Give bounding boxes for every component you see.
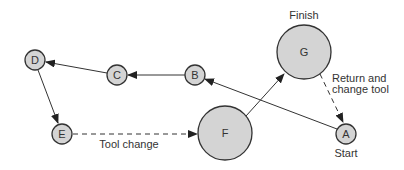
svg-text:D: D	[31, 54, 39, 66]
svg-text:G: G	[300, 46, 309, 58]
edge-d-to-e	[38, 70, 58, 123]
node-g: G	[277, 25, 331, 79]
node-f: F	[198, 106, 252, 160]
svg-text:F: F	[222, 127, 229, 139]
svg-text:A: A	[342, 128, 350, 140]
node-d: D	[25, 50, 45, 70]
node-e: E	[52, 124, 72, 144]
svg-text:B: B	[191, 69, 198, 81]
node-b: B	[185, 65, 205, 85]
edge-c-to-d	[46, 62, 107, 73]
node-a: A	[336, 124, 356, 144]
svg-text:C: C	[113, 69, 121, 81]
node-c: C	[107, 65, 127, 85]
tool-change-label: Tool change	[99, 138, 158, 150]
tool-path-diagram: A B C D E F G Finish Start Tool change R…	[0, 0, 404, 170]
finish-label: Finish	[289, 9, 318, 21]
svg-text:E: E	[58, 128, 65, 140]
start-label: Start	[334, 147, 357, 159]
edge-f-to-g	[246, 74, 284, 116]
return-label-line2: change tool	[332, 83, 389, 95]
